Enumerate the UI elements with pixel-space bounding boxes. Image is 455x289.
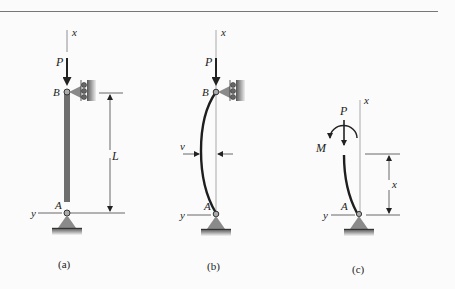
pin-support-a bbox=[52, 215, 82, 235]
x-axis-label: x bbox=[363, 94, 369, 106]
panel-a: x P B bbox=[30, 26, 125, 271]
load-label: P bbox=[204, 55, 213, 69]
caption-a: (a) bbox=[58, 258, 71, 271]
pin-support-a bbox=[201, 216, 231, 236]
y-axis-label: y bbox=[322, 209, 328, 221]
column bbox=[64, 92, 70, 202]
figure-page: x P B bbox=[0, 0, 455, 289]
y-axis-label: y bbox=[179, 209, 185, 221]
load-label: P bbox=[55, 55, 64, 69]
deflection-label: v bbox=[180, 140, 185, 152]
column-buckling-figure: x P B bbox=[0, 0, 455, 289]
support-a-label: A bbox=[340, 200, 348, 212]
support-b-label: B bbox=[202, 86, 209, 98]
distance-label: x bbox=[391, 178, 397, 190]
roller-support-b bbox=[218, 80, 245, 101]
x-axis-label: x bbox=[220, 26, 226, 38]
pin-b bbox=[213, 89, 219, 95]
support-b-label: B bbox=[53, 86, 60, 98]
length-label: L bbox=[111, 149, 119, 163]
y-axis-label: y bbox=[30, 207, 36, 219]
caption-c: (c) bbox=[352, 263, 365, 276]
caption-b: (b) bbox=[207, 260, 220, 273]
x-axis-label: x bbox=[71, 26, 77, 38]
load-label: P bbox=[339, 104, 348, 118]
support-a-label: A bbox=[54, 199, 62, 211]
deflected-column bbox=[201, 92, 216, 213]
pin-a bbox=[213, 211, 219, 217]
roller-support-b bbox=[69, 80, 96, 101]
support-a-label: A bbox=[203, 200, 211, 212]
pin-a bbox=[356, 211, 361, 216]
pin-support-a bbox=[344, 216, 374, 236]
panel-c: x P M x y A bbox=[315, 94, 400, 276]
moment-label: M bbox=[315, 141, 327, 155]
panel-b: x P B v bbox=[179, 26, 245, 273]
